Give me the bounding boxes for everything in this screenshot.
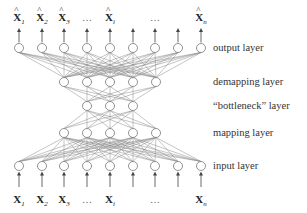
connection-edge	[156, 138, 178, 162]
neuron-node-output-layer	[106, 44, 115, 53]
input-variable-2: X2	[36, 193, 47, 210]
connection-edge	[19, 138, 156, 162]
neuron-node-mapping-layer	[83, 129, 92, 138]
hat-accent: ^	[106, 4, 110, 16]
neuron-node-mapping-layer	[152, 129, 161, 138]
output-variable-2: X^2	[36, 11, 47, 28]
neuron-node-input-layer	[38, 162, 47, 171]
label-input-layer: input layer	[213, 160, 258, 172]
input-variable-i: Xi	[105, 193, 115, 210]
neuron-node-input-layer	[197, 162, 206, 171]
neuron-node-output-layer	[15, 44, 24, 53]
connection-edge	[133, 111, 156, 129]
connection-edge	[64, 53, 178, 78]
neuron-node-input-layer	[83, 162, 92, 171]
neuron-node-input-layer	[15, 162, 24, 171]
neuron-node-bottleneck-layer	[83, 102, 92, 111]
input-variable-1: X1	[13, 193, 24, 210]
neuron-node-mapping-layer	[106, 129, 115, 138]
neuron-node-input-layer	[129, 162, 138, 171]
input-ellipsis: …	[82, 193, 92, 206]
neuron-node-mapping-layer	[129, 129, 138, 138]
connection-edge	[87, 53, 201, 78]
hat-accent: ^	[196, 4, 200, 16]
neuron-node-demapping-layer	[152, 78, 161, 87]
neuron-node-demapping-layer	[83, 78, 92, 87]
neuron-node-bottleneck-layer	[129, 102, 138, 111]
connection-edge	[64, 53, 201, 78]
connection-edge	[64, 111, 87, 129]
hat-accent: ^	[59, 4, 63, 16]
neuron-node-demapping-layer	[106, 78, 115, 87]
connection-edge	[156, 138, 201, 162]
neuron-node-mapping-layer	[60, 129, 69, 138]
input-variable-n: Xn	[195, 193, 206, 210]
output-variable-i: X^i	[105, 11, 115, 28]
neuron-node-demapping-layer	[129, 78, 138, 87]
neuron-node-output-layer	[197, 44, 206, 53]
neuron-node-bottleneck-layer	[106, 102, 115, 111]
input-ellipsis: …	[150, 193, 160, 206]
neural-network-diagram: output layer demapping layer “bottleneck…	[0, 0, 307, 213]
output-variable-n: X^n	[195, 11, 206, 28]
input-variable-3: X3	[58, 193, 69, 210]
neuron-node-input-layer	[106, 162, 115, 171]
connection-edge	[19, 53, 64, 78]
neuron-node-output-layer	[83, 44, 92, 53]
connection-edge	[64, 111, 133, 129]
output-variable-3: X^3	[58, 11, 69, 28]
neuron-node-output-layer	[60, 44, 69, 53]
neuron-node-demapping-layer	[60, 78, 69, 87]
connection-edge	[42, 138, 156, 162]
connection-edge	[19, 138, 133, 162]
connection-edge	[156, 53, 201, 78]
neuron-node-output-layer	[151, 44, 160, 53]
neuron-node-input-layer	[151, 162, 160, 171]
connection-edge	[19, 138, 110, 162]
output-variable-1: X^1	[13, 11, 24, 28]
output-ellipsis: …	[82, 11, 92, 24]
neuron-node-input-layer	[60, 162, 69, 171]
connection-edge	[42, 53, 64, 78]
label-mapping-layer: mapping layer	[213, 127, 273, 139]
label-bottleneck-layer: “bottleneck” layer	[213, 100, 290, 112]
output-ellipsis: …	[150, 11, 160, 24]
hat-accent: ^	[14, 4, 18, 16]
label-output-layer: output layer	[213, 42, 263, 54]
neuron-node-output-layer	[174, 44, 183, 53]
connection-edge	[110, 53, 201, 78]
label-demapping-layer: demapping layer	[213, 76, 283, 88]
neuron-node-output-layer	[38, 44, 47, 53]
connection-edge	[19, 138, 64, 162]
neuron-node-output-layer	[129, 44, 138, 53]
neuron-node-input-layer	[174, 162, 183, 171]
hat-accent: ^	[37, 4, 41, 16]
